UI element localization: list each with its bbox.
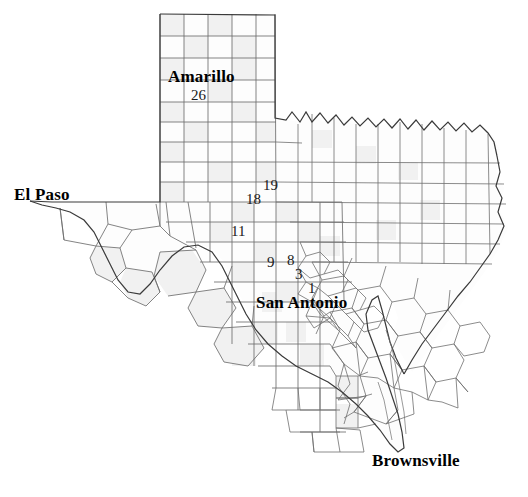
shaded-county (398, 162, 418, 180)
shaded-county (232, 58, 256, 80)
shaded-county (298, 222, 320, 242)
shaded-county (254, 242, 276, 262)
shaded-county (184, 36, 208, 58)
shaded-county (256, 122, 276, 142)
shaded-county (312, 130, 332, 148)
shaded-county (336, 376, 358, 398)
shaded-county (208, 80, 232, 102)
shaded-county (208, 162, 232, 182)
shaded-county (320, 236, 340, 256)
shaded-county (184, 122, 208, 142)
shaded-county (232, 202, 254, 222)
shaded-county (160, 182, 184, 202)
shaded-county (356, 146, 376, 164)
shaded-county (154, 250, 206, 296)
shaded-county (286, 322, 306, 342)
shaded-county (276, 202, 298, 222)
shaded-county (232, 262, 254, 282)
shaded-county (160, 142, 184, 162)
shaded-county (232, 36, 256, 58)
shaded-county (232, 102, 256, 122)
shaded-county (208, 14, 232, 36)
map-svg-canvas (0, 0, 528, 497)
shaded-county (210, 222, 232, 242)
texas-county-map: Amarillo El Paso San Antonio Brownsville… (0, 0, 528, 497)
shaded-county (256, 162, 276, 182)
shaded-county (160, 102, 184, 122)
state-border-rio-grande-west (30, 14, 160, 202)
shaded-county (160, 14, 184, 36)
shaded-county (160, 58, 184, 80)
